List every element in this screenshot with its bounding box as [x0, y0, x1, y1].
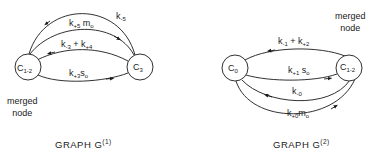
edge-label-k+3-s0: k+3so [69, 68, 89, 79]
edge-label-k+0-m0: k+0mo [287, 108, 310, 119]
edge-label-k-5: k-5 [116, 11, 126, 22]
graph-2 [222, 49, 362, 114]
caption-superscript: (2) [320, 138, 329, 145]
merged-text: merged [7, 95, 38, 107]
node-text: node [7, 107, 38, 119]
edge-label-k-3-k+4: k-3 + k+4 [61, 39, 93, 50]
arrow-icon [331, 106, 336, 109]
edge-label-k+1-s0: k+1 so [288, 65, 310, 76]
edge-label-k+5-m0: k+5 mo [69, 18, 94, 29]
node-text: node [335, 22, 366, 34]
arrow-icon [114, 36, 119, 39]
caption-text: GRAPH G [55, 139, 102, 150]
edge-label-k-1-k+2: k-1 + k+2 [278, 36, 310, 47]
caption-text: GRAPH G [273, 139, 320, 150]
edge-k+0-m0 [236, 79, 355, 114]
edge-k-3-k+4 [37, 50, 128, 61]
merged-node-note-1: merged node [7, 95, 38, 119]
merged-text: merged [335, 10, 366, 22]
graph-1-caption: GRAPH G(1) [55, 138, 112, 150]
edge-label-k-0: k-0 [292, 86, 302, 97]
merged-node-note-2: merged node [335, 10, 366, 34]
arrow-icon [266, 95, 272, 97]
arrow-icon [324, 78, 330, 79]
arrow-icon [46, 21, 50, 24]
caption-superscript: (1) [102, 138, 111, 145]
graph-2-caption: GRAPH G(2) [273, 138, 330, 150]
arrow-icon [106, 79, 112, 80]
edge-k-1-k+2 [245, 49, 345, 60]
